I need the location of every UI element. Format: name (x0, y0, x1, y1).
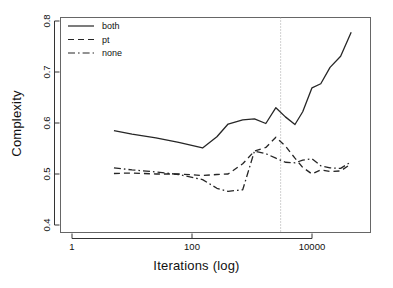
y-tick-label: 0.7 (41, 65, 52, 78)
x-tick-label: 10000 (299, 241, 325, 252)
x-axis-title: Iterations (log) (0, 258, 393, 273)
legend-label-none: none (102, 48, 122, 58)
y-axis-title: Complexity (9, 74, 24, 174)
y-tick-label: 0.5 (41, 167, 52, 180)
complexity-vs-iterations-line-chart: 0.40.50.60.70.8 110010000 bothptnone (0, 0, 393, 288)
legend-label-both: both (102, 21, 120, 31)
x-tick-label: 100 (184, 241, 200, 252)
legend-label-pt: pt (102, 35, 110, 45)
chart-figure: 0.40.50.60.70.8 110010000 bothptnone Ite… (0, 0, 393, 288)
y-tick-label: 0.6 (41, 116, 52, 129)
y-tick-label: 0.8 (41, 14, 52, 27)
y-tick-label: 0.4 (41, 218, 52, 231)
x-tick-label: 1 (69, 241, 74, 252)
